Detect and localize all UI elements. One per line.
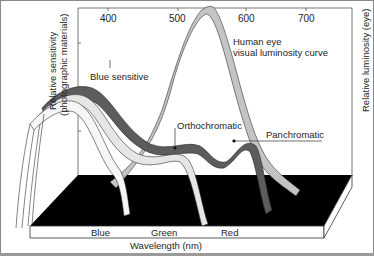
y-axis-left-label-line2: (photographic materials) [59,14,69,116]
tick-label-500: 500 [169,14,186,24]
label-human-eye-line1: Human eye [233,37,282,47]
x-axis-label: Wavelength (nm) [130,241,202,251]
region-label-blue: Blue [91,228,110,238]
region-label-green: Green [151,228,177,238]
label-human-eye-line2: visual luminosity curve [233,48,328,58]
y-axis-left-label-line1: Relative sensitivity [48,32,58,110]
region-label-red: Red [221,228,238,238]
label-orthochromatic: Orthochromatic [177,121,242,131]
diagram-frame: 400 500 600 700 Blue sensitive Orthochro… [0,0,374,256]
label-panchromatic: Panchromatic [266,130,324,140]
label-blue-sensitive: Blue sensitive [90,72,149,82]
y-axis-right-label: Relative luminosity (eye) [361,9,371,112]
tick-label-700: 700 [298,14,315,24]
tick-label-600: 600 [238,14,255,24]
tick-label-400: 400 [100,14,117,24]
